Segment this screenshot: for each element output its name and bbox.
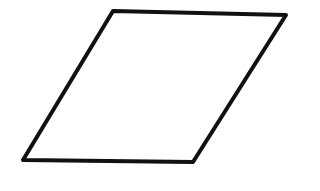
parallelogram-shape xyxy=(23,11,286,162)
diagram-canvas xyxy=(0,0,320,191)
